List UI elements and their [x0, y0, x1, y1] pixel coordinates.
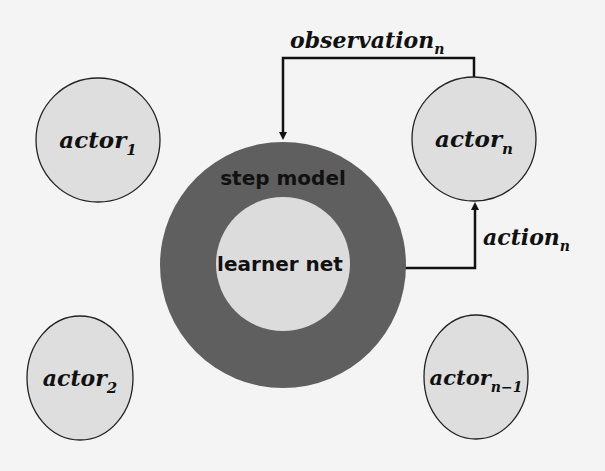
actor-node-2: actor2: [27, 316, 133, 440]
action-edge: actionn: [405, 206, 570, 268]
actor-node-1: actor1: [36, 78, 160, 202]
actor-node-n: actorn: [412, 77, 536, 201]
step-model-label: step model: [220, 166, 346, 190]
actor-node-n-minus-1: actorn−1: [424, 315, 528, 439]
observation-label: observationn: [290, 27, 444, 57]
action-arrow-icon: [405, 206, 475, 268]
action-label: actionn: [483, 224, 570, 254]
diagram-canvas: observationn actionn step model learner …: [0, 0, 605, 471]
step-model-ring: step model learner net: [160, 142, 406, 388]
learner-net-label: learner net: [217, 252, 343, 276]
